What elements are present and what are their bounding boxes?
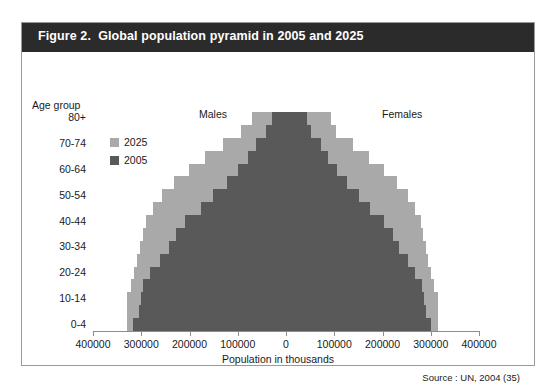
- bar-2005-male: [213, 189, 286, 202]
- x-axis-tick: [334, 331, 335, 336]
- x-axis-tick-label: 300000: [124, 338, 159, 350]
- figure-header-bar: Figure 2. Global population pyramid in 2…: [22, 23, 534, 52]
- age-band-row: [93, 318, 479, 331]
- bar-2005-male: [266, 125, 286, 138]
- age-band-row: [93, 305, 479, 318]
- y-axis-tick-label: 40-44: [30, 215, 86, 227]
- bar-2005-male: [169, 241, 286, 254]
- bar-2005-female: [286, 189, 359, 202]
- bar-2005-male: [227, 176, 286, 189]
- age-band-row: [93, 202, 479, 215]
- bar-2005-male: [143, 279, 286, 292]
- bar-2005-female: [286, 292, 424, 305]
- x-axis-tick: [190, 331, 191, 336]
- x-axis-tick-label: 100000: [317, 338, 352, 350]
- age-band-row: [93, 125, 479, 138]
- x-axis-tick: [431, 331, 432, 336]
- chart-plot-area: Age group Males Females 2025 2005 400000…: [22, 52, 534, 365]
- bar-2005-male: [176, 228, 286, 241]
- bar-2005-female: [286, 241, 399, 254]
- y-axis-tick-label: 50-54: [30, 189, 86, 201]
- x-axis-tick-label: 400000: [75, 338, 110, 350]
- x-axis-tick-label: 0: [283, 338, 289, 350]
- x-axis-tick: [383, 331, 384, 336]
- x-axis-tick: [238, 331, 239, 336]
- bar-2005-female: [286, 125, 311, 138]
- x-axis-tick-label: 400000: [461, 338, 496, 350]
- bar-2005-male: [185, 215, 286, 228]
- x-axis-tick-label: 300000: [413, 338, 448, 350]
- age-band-row: [93, 164, 479, 177]
- bar-2005-male: [201, 202, 286, 215]
- bar-2005-female: [286, 279, 422, 292]
- bar-2005-female: [286, 164, 337, 177]
- y-axis-tick-label: 10-14: [30, 292, 86, 304]
- age-band-row: [93, 254, 479, 267]
- bar-2005-male: [139, 305, 286, 318]
- age-band-row: [93, 112, 479, 125]
- bar-2005-female: [286, 254, 408, 267]
- age-band-row: [93, 176, 479, 189]
- bar-2005-male: [133, 318, 286, 331]
- bar-2005-male: [248, 151, 286, 164]
- population-pyramid-bars: [93, 112, 479, 331]
- age-band-row: [93, 228, 479, 241]
- y-axis-title: Age group: [32, 99, 80, 111]
- bar-2005-female: [286, 151, 328, 164]
- y-axis-tick-label: 70-74: [30, 137, 86, 149]
- age-band-row: [93, 151, 479, 164]
- source-note: Source : UN, 2004 (35): [422, 372, 520, 383]
- x-axis-title: Population in thousands: [22, 353, 534, 365]
- x-axis-tick: [141, 331, 142, 336]
- figure-frame: Figure 2. Global population pyramid in 2…: [21, 22, 535, 366]
- x-axis-tick: [286, 331, 287, 336]
- age-band-row: [93, 267, 479, 280]
- bar-2005-male: [150, 267, 286, 280]
- bar-2005-female: [286, 305, 426, 318]
- x-axis-tick-label: 200000: [172, 338, 207, 350]
- y-axis-tick-label: 0-4: [30, 318, 86, 330]
- bar-2005-female: [286, 202, 370, 215]
- age-band-row: [93, 292, 479, 305]
- bar-2005-male: [272, 112, 286, 125]
- bar-2005-female: [286, 112, 307, 125]
- bar-2005-female: [286, 267, 415, 280]
- bar-2005-male: [160, 254, 286, 267]
- bar-2005-male: [141, 292, 286, 305]
- age-band-row: [93, 189, 479, 202]
- age-band-row: [93, 241, 479, 254]
- y-axis-tick-label: 30-34: [30, 240, 86, 252]
- y-axis-tick-label: 80+: [30, 111, 86, 123]
- age-band-row: [93, 138, 479, 151]
- age-band-row: [93, 279, 479, 292]
- y-axis-tick-label: 60-64: [30, 163, 86, 175]
- figure-title: Figure 2. Global population pyramid in 2…: [38, 29, 364, 43]
- bar-2005-female: [286, 228, 393, 241]
- x-axis-tick: [479, 331, 480, 336]
- x-axis-tick-label: 100000: [220, 338, 255, 350]
- x-axis-tick: [93, 331, 94, 336]
- bar-2005-female: [286, 318, 431, 331]
- bar-2005-female: [286, 138, 321, 151]
- bar-2005-female: [286, 215, 384, 228]
- age-band-row: [93, 215, 479, 228]
- bar-2005-female: [286, 176, 347, 189]
- bar-2005-male: [256, 138, 286, 151]
- bar-2005-male: [238, 164, 286, 177]
- x-axis-tick-label: 200000: [365, 338, 400, 350]
- y-axis-tick-label: 20-24: [30, 266, 86, 278]
